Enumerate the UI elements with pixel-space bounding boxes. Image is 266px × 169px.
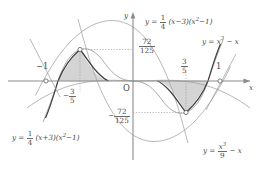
coefficient-fraction: 1 4 [160, 14, 167, 30]
cubic-exponent: 3 [221, 35, 224, 41]
equation-label-cubic-right: y = x3 − x [202, 36, 239, 45]
cubic-rhs: − x [226, 38, 238, 45]
tick-label-x-pos-three-fifths: 3 5 [181, 58, 188, 74]
equation-factor-1-bl: (x+3) [36, 134, 56, 141]
equation-lhs-br: y = [203, 147, 215, 154]
equation-label-bottom-right: y = x3 9 − x [203, 142, 242, 160]
coefficient-fraction-bl: 1 4 [27, 130, 34, 146]
point-marker-x-pos-1 [218, 79, 222, 83]
fraction-three-fifths-left: 3 5 [69, 88, 76, 104]
equation-lhs: y = [145, 18, 157, 25]
equation-factor-2-open: (x [189, 18, 196, 25]
equation-factor-1: (x−3) [169, 18, 189, 25]
fraction-72-125-lower: 72 125 [114, 108, 130, 124]
y-axis-arrowhead [131, 12, 136, 19]
tick-label-y-neg-seventytwo-over-125: − 72 125 [108, 108, 130, 124]
equation-factor-2-open-bl: (x [56, 134, 63, 141]
fraction-numerator: x3 [218, 142, 227, 151]
equation-label-bottom-left: y = 1 4 (x+3)(x2−1) [12, 130, 79, 146]
dark-cubic-segment-left [46, 81, 59, 118]
cubic-over-nine-fraction: x3 9 [218, 142, 227, 160]
curve-cubic-x3-over-9-minus-x [27, 80, 250, 108]
tick-label-x-pos-one: 1 [216, 62, 221, 70]
equation-rhs-br: − x [229, 147, 241, 154]
math-diagram: y x O y = 1 4 (x−3)(x2−1) y = x3 − x y =… [0, 0, 266, 169]
origin-label: O [123, 84, 130, 92]
equation-lhs-bl: y = [12, 134, 24, 141]
equation-factor-2-close-bl: −1) [66, 134, 79, 141]
tick-label-y-pos-seventytwo-over-125: 72 125 [139, 38, 155, 54]
tick-label-x-neg-three-fifths: − 3 5 [63, 88, 76, 104]
equation-label-top-right: y = 1 4 (x−3)(x2−1) [145, 14, 212, 30]
fraction-three-fifths-right: 3 5 [181, 58, 188, 74]
cubic-lhs: y = x [202, 38, 221, 45]
fraction-72-125-upper: 72 125 [139, 38, 155, 54]
point-marker-lower-min [184, 110, 188, 114]
x-axis-label: x [249, 84, 253, 91]
y-axis-label: y [124, 12, 128, 19]
equation-factor-2-close: −1) [199, 18, 212, 25]
tick-label-x-neg-one: −1 [36, 62, 48, 70]
point-marker-x-neg-1 [44, 79, 48, 83]
point-marker-upper-max [78, 47, 82, 51]
